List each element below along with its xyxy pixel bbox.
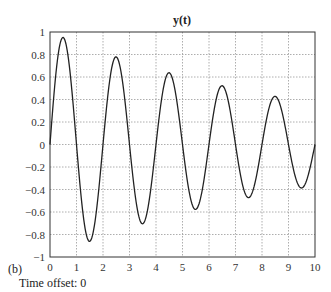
y-tick-label: −1	[33, 251, 45, 263]
y-tick-label: −0.8	[25, 229, 45, 241]
y-tick-label: −0.4	[25, 184, 45, 196]
y-tick-label: 0.8	[31, 49, 45, 61]
time-offset-label: Time offset: 0	[19, 276, 86, 291]
y-tick-label: 0.2	[31, 116, 45, 128]
x-tick-label: 8	[259, 261, 265, 273]
x-tick-label: 6	[206, 261, 212, 273]
y-tick-label: −0.6	[25, 206, 45, 218]
x-tick-label: 0	[47, 261, 53, 273]
panel-label: (b)	[8, 262, 22, 277]
x-tick-label: 9	[286, 261, 292, 273]
x-tick-label: 5	[180, 261, 186, 273]
chart-title: y(t)	[173, 13, 191, 27]
line-chart: 10.80.60.40.20−0.2−0.4−0.6−0.8−1 0123456…	[0, 0, 331, 292]
y-tick-label: −0.2	[25, 161, 45, 173]
x-tick-label: 10	[310, 261, 322, 273]
x-tick-label: 7	[233, 261, 239, 273]
y-tick-label: 0.6	[31, 71, 45, 83]
y-tick-label: 0.4	[31, 94, 45, 106]
x-tick-label: 4	[153, 261, 159, 273]
x-tick-label: 1	[74, 261, 80, 273]
y-tick-label: 0	[40, 139, 46, 151]
y-axis-ticks: 10.80.60.40.20−0.2−0.4−0.6−0.8−1	[25, 26, 45, 263]
x-axis-ticks: 012345678910	[47, 261, 321, 273]
x-tick-label: 3	[127, 261, 133, 273]
x-tick-label: 2	[100, 261, 106, 273]
y-tick-label: 1	[40, 26, 46, 38]
